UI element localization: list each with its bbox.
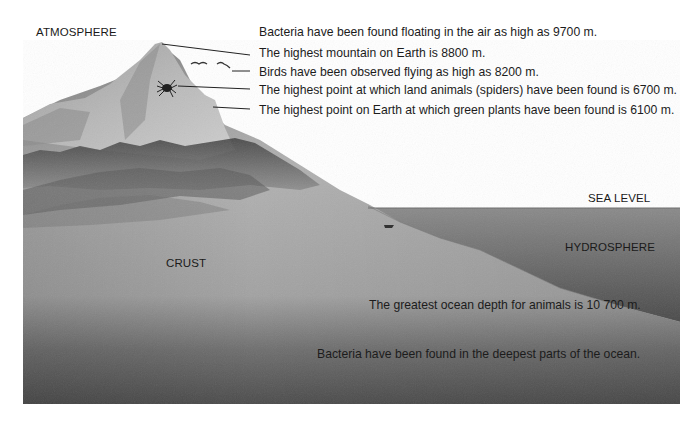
zone-label-sea-level: SEA LEVEL (588, 191, 650, 205)
fact-bacteria-air: Bacteria have been found floating in the… (259, 25, 597, 39)
fact-bacteria-ocean: Bacteria have been found in the deepest … (317, 347, 640, 361)
fact-spiders: The highest point at which land animals … (259, 83, 677, 97)
zone-label-crust: CRUST (166, 256, 206, 270)
fact-ocean-animals: The greatest ocean depth for animals is … (369, 298, 641, 312)
fact-highest-mountain: The highest mountain on Earth is 8800 m. (259, 46, 485, 60)
fact-birds: Birds have been observed flying as high … (259, 65, 539, 79)
zone-label-hydrosphere: HYDROSPHERE (565, 240, 655, 254)
fact-green-plants: The highest point on Earth at which gree… (259, 103, 674, 117)
zone-label-atmosphere: ATMOSPHERE (36, 25, 117, 39)
